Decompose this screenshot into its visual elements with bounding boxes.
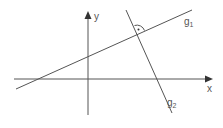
line-g2 — [126, 10, 172, 113]
x-axis-label: x — [207, 83, 212, 94]
line-g2-label: g2 — [167, 97, 177, 109]
right-angle-dot-icon — [138, 29, 140, 31]
right-angle-arc-icon — [135, 25, 145, 30]
y-axis-arrow-icon — [85, 11, 92, 19]
line-g1-label: g1 — [184, 16, 194, 28]
coordinate-diagram: x y g1 g2 — [0, 0, 223, 128]
x-axis-arrow-icon — [205, 76, 213, 83]
y-axis-label: y — [94, 11, 99, 22]
line-g1 — [16, 10, 192, 89]
